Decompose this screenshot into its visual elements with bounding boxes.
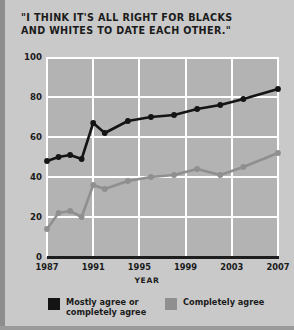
series-completely-agree	[44, 150, 281, 232]
data-point	[275, 86, 281, 92]
y-tick-label: 100	[16, 52, 42, 62]
data-point	[194, 166, 200, 172]
series-mostly-or-completely-agree	[44, 86, 281, 164]
y-tick-label: 80	[16, 92, 42, 102]
legend: Mostly agree or completely agreeComplete…	[0, 294, 294, 326]
x-tick-label: 2007	[266, 262, 289, 272]
legend-label: Completely agree	[183, 297, 264, 307]
x-tick-label: 1995	[128, 262, 151, 272]
y-tick-label: 0	[16, 252, 42, 262]
data-point	[217, 102, 223, 108]
series-layer	[47, 57, 278, 257]
data-point	[90, 182, 96, 188]
data-point	[102, 186, 108, 192]
data-point	[79, 214, 85, 220]
data-point	[56, 154, 62, 160]
data-point	[194, 106, 200, 112]
legend-swatch	[48, 298, 60, 310]
y-tick-label: 20	[16, 212, 42, 222]
x-tick-label: 1999	[174, 262, 197, 272]
x-tick-label: 1991	[82, 262, 105, 272]
legend-swatch	[165, 298, 177, 310]
data-point	[67, 152, 73, 158]
data-point	[56, 210, 62, 216]
data-point	[240, 96, 246, 102]
plot-area	[47, 57, 278, 257]
y-tick-label: 40	[16, 172, 42, 182]
data-point	[125, 118, 131, 124]
bottom-edge-band	[0, 326, 294, 330]
x-axis-line	[47, 256, 279, 259]
data-point	[125, 178, 131, 184]
legend-item: Mostly agree or completely agree	[48, 297, 146, 317]
data-point	[44, 158, 50, 164]
y-tick-label: 60	[16, 132, 42, 142]
data-point	[67, 208, 73, 214]
x-tick-label: 2003	[220, 262, 243, 272]
x-axis-label: YEAR	[0, 276, 294, 285]
legend-item: Completely agree	[165, 297, 264, 310]
y-axis-ticks: 020406080100	[14, 57, 42, 257]
data-point	[275, 150, 281, 156]
data-point	[102, 130, 108, 136]
data-point	[171, 112, 177, 118]
data-point	[90, 120, 96, 126]
data-point	[44, 226, 50, 232]
legend-label: Mostly agree or completely agree	[66, 297, 146, 317]
data-point	[148, 114, 154, 120]
data-point	[148, 174, 154, 180]
chart-figure: "I THINK IT'S ALL RIGHT FOR BLACKS AND W…	[0, 0, 294, 330]
x-tick-label: 1987	[35, 262, 58, 272]
data-point	[171, 172, 177, 178]
chart-title: "I THINK IT'S ALL RIGHT FOR BLACKS AND W…	[21, 12, 281, 38]
data-point	[79, 156, 85, 162]
data-point	[240, 164, 246, 170]
data-point	[217, 172, 223, 178]
